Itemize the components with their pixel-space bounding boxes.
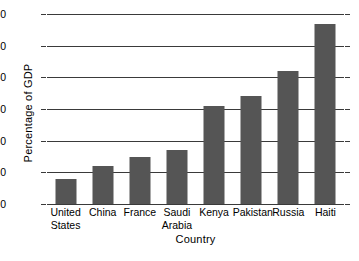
y-tick-label: 40 bbox=[0, 72, 6, 82]
bar-slot bbox=[84, 14, 121, 204]
y-axis-tick bbox=[41, 109, 46, 110]
x-tick-label: Haiti bbox=[307, 206, 344, 219]
bars-group bbox=[47, 14, 344, 204]
bar[interactable] bbox=[241, 96, 262, 204]
y-tick-label: 10 bbox=[0, 167, 6, 177]
bar[interactable] bbox=[278, 71, 299, 204]
y-tick-label: 50 bbox=[0, 41, 6, 51]
y-tick-label: 0 bbox=[0, 199, 6, 209]
bar-slot bbox=[196, 14, 233, 204]
y-axis-title: Percentage of GDP bbox=[22, 38, 34, 188]
x-tick-label: Russia bbox=[270, 206, 307, 219]
x-tick-label: Kenya bbox=[196, 206, 233, 219]
bar-slot bbox=[158, 14, 195, 204]
bar-slot bbox=[121, 14, 158, 204]
y-axis-tick bbox=[41, 14, 46, 15]
x-tick-label: SaudiArabia bbox=[158, 206, 195, 231]
y-axis-tick bbox=[41, 46, 46, 47]
y-tick-label: 20 bbox=[0, 136, 6, 146]
bar[interactable] bbox=[92, 166, 113, 204]
bar-slot bbox=[47, 14, 84, 204]
y-axis-tick-right bbox=[345, 77, 350, 78]
y-axis-tick bbox=[41, 172, 46, 173]
bar[interactable] bbox=[204, 106, 225, 204]
y-axis-tick-right bbox=[345, 141, 350, 142]
y-axis-tick-right bbox=[345, 14, 350, 15]
y-axis-tick bbox=[41, 77, 46, 78]
x-axis-title: Country bbox=[47, 233, 344, 245]
x-tick-label: UnitedStates bbox=[47, 206, 84, 231]
bar[interactable] bbox=[129, 157, 150, 205]
y-tick-label: 30 bbox=[0, 104, 6, 114]
bar-slot bbox=[233, 14, 270, 204]
y-axis-tick-right bbox=[345, 204, 350, 205]
bar[interactable] bbox=[55, 179, 76, 204]
y-axis-tick-right bbox=[345, 172, 350, 173]
bar[interactable] bbox=[315, 24, 336, 205]
y-axis-tick bbox=[41, 141, 46, 142]
y-axis-tick-right bbox=[345, 109, 350, 110]
gridline bbox=[47, 204, 344, 205]
y-tick-label: 60 bbox=[0, 9, 6, 19]
x-tick-label: China bbox=[84, 206, 121, 219]
x-tick-label: Pakistan bbox=[233, 206, 270, 219]
bar[interactable] bbox=[166, 150, 187, 204]
y-axis-tick-right bbox=[345, 46, 350, 47]
y-axis-tick bbox=[41, 204, 46, 205]
x-tick-label: France bbox=[121, 206, 158, 219]
bar-chart: Percentage of GDP 0102030405060 UnitedSt… bbox=[0, 0, 359, 261]
plot-area bbox=[47, 14, 344, 204]
bar-slot bbox=[307, 14, 344, 204]
bar-slot bbox=[270, 14, 307, 204]
